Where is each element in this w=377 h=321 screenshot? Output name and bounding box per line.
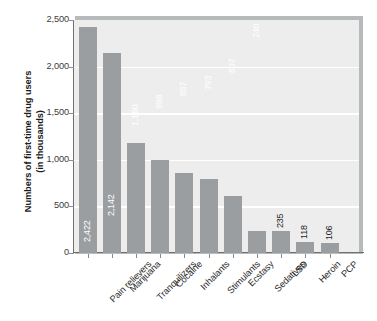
x-axis-labels: Pain relieversMarijuanaTranquilizersCoca… bbox=[74, 254, 374, 321]
bar-inhalants[interactable]: 857 bbox=[173, 20, 197, 253]
bar-pcp[interactable]: 106 bbox=[319, 20, 343, 253]
bar-cocaine[interactable]: 998 bbox=[149, 20, 173, 253]
bar-rect bbox=[248, 231, 266, 253]
bar-value-label: 2,142 bbox=[106, 194, 116, 216]
x-tick-mark bbox=[112, 254, 113, 258]
bar-rect bbox=[224, 196, 242, 253]
bar-rect bbox=[272, 231, 290, 253]
bar-ecstasy[interactable]: 607 bbox=[222, 20, 246, 253]
bar-value-label: 607 bbox=[227, 58, 237, 72]
bar-value-label: 240 bbox=[251, 24, 261, 38]
y-tick-label-2000: 2,000 bbox=[31, 61, 69, 71]
y-tick-label-1000: 1,000 bbox=[31, 154, 69, 164]
y-tick-mark-2000 bbox=[69, 67, 74, 68]
bar-value-label: 106 bbox=[324, 226, 334, 240]
bar-rect bbox=[200, 179, 218, 253]
bar-lsd[interactable]: 235 bbox=[270, 20, 294, 253]
x-tick-mark bbox=[330, 254, 331, 258]
x-tick-mark bbox=[136, 254, 137, 258]
bar-tranquilizers[interactable]: 1,180 bbox=[125, 20, 149, 253]
x-tick-mark bbox=[233, 254, 234, 258]
y-axis-tick-labels: 05001,0001,5002,0002,500 bbox=[29, 0, 69, 321]
x-tick-mark bbox=[257, 254, 258, 258]
y-tick-mark-0 bbox=[69, 253, 74, 254]
x-tick-mark bbox=[160, 254, 161, 258]
bar-rect bbox=[151, 160, 169, 253]
bar-value-label: 998 bbox=[154, 95, 164, 109]
y-tick-label-0: 0 bbox=[31, 247, 69, 257]
bars-layer: 2,4222,1421,180998857793607240235118106 bbox=[74, 20, 359, 253]
bar-value-label: 793 bbox=[203, 76, 213, 90]
bar-rect bbox=[321, 243, 339, 253]
bar-value-label: 235 bbox=[275, 214, 285, 228]
x-tick-mark bbox=[88, 254, 89, 258]
bar-rect bbox=[103, 53, 121, 253]
bar-sedatives[interactable]: 240 bbox=[246, 20, 270, 253]
bar-value-label: 2,422 bbox=[82, 220, 92, 242]
y-tick-label-500: 500 bbox=[31, 200, 69, 210]
y-tick-mark-2500 bbox=[69, 20, 74, 21]
bar-rect bbox=[296, 242, 314, 253]
bar-marijuana[interactable]: 2,142 bbox=[101, 20, 125, 253]
x-tick-mark bbox=[281, 254, 282, 258]
bar-value-label: 118 bbox=[299, 225, 309, 239]
bar-value-label: 1,180 bbox=[130, 104, 140, 126]
bar-stimulants[interactable]: 793 bbox=[198, 20, 222, 253]
y-tick-mark-1000 bbox=[69, 160, 74, 161]
bar-pain-relievers[interactable]: 2,422 bbox=[77, 20, 101, 253]
bar-value-label: 857 bbox=[178, 81, 188, 95]
bar-chart: Numbers of first-time drug users (in tho… bbox=[0, 0, 377, 321]
x-tick-mark bbox=[209, 254, 210, 258]
x-tick-mark bbox=[184, 254, 185, 258]
bar-heroin[interactable]: 118 bbox=[294, 20, 318, 253]
x-tick-mark bbox=[305, 254, 306, 258]
bar-rect bbox=[127, 143, 145, 253]
bar-rect bbox=[175, 173, 193, 253]
y-tick-label-2500: 2,500 bbox=[31, 14, 69, 24]
y-tick-mark-1500 bbox=[69, 113, 74, 114]
x-label-pcp: PCP bbox=[339, 259, 359, 279]
y-tick-label-1500: 1,500 bbox=[31, 107, 69, 117]
y-tick-mark-500 bbox=[69, 206, 74, 207]
